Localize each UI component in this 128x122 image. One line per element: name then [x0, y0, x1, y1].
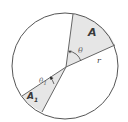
- a1-subscript: 1: [34, 96, 38, 103]
- diagram-svg: [0, 0, 128, 122]
- sector-a1-label: A1: [27, 92, 38, 103]
- sector-a-fill: [66, 14, 115, 67]
- theta-label: θ: [78, 47, 83, 55]
- theta1-subscript: 1: [43, 79, 47, 86]
- theta1-label: θ1: [39, 78, 47, 86]
- sector-a-label: A: [88, 27, 97, 38]
- radius-label: r: [97, 57, 101, 65]
- sector-a1-fill: [22, 67, 66, 112]
- circle-sector-diagram: A θ r θ1 A1: [0, 0, 128, 122]
- a1-main: A: [27, 91, 34, 101]
